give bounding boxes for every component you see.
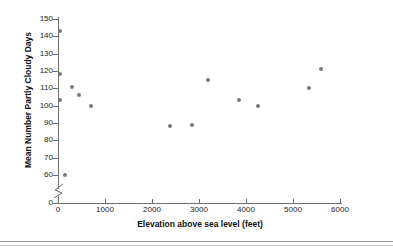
- y-tick-60: [53, 175, 58, 176]
- y-tick-0: [53, 203, 58, 204]
- y-tick-130: [53, 54, 58, 55]
- x-tick-label-3000: 3000: [182, 205, 216, 214]
- data-point: [63, 173, 67, 177]
- data-point: [89, 104, 93, 108]
- x-tick-label-6000: 6000: [323, 205, 357, 214]
- x-tick-3000: [199, 199, 200, 203]
- y-axis-title: Mean Number Partly Cloudy Days: [23, 12, 33, 188]
- data-point: [58, 98, 62, 102]
- page-divider-rule: [0, 241, 393, 242]
- scatter-plot-figure: 060708090100110120130140150 010002000300…: [0, 0, 393, 249]
- x-tick-label-0: 0: [41, 205, 75, 214]
- data-point: [319, 67, 323, 71]
- y-tick-140: [53, 36, 58, 37]
- data-point: [237, 98, 241, 102]
- x-axis-line: [58, 203, 342, 204]
- data-point: [58, 72, 62, 76]
- x-tick-5000: [293, 199, 294, 203]
- y-tick-100: [53, 106, 58, 107]
- data-point: [206, 78, 210, 82]
- data-point: [190, 123, 194, 127]
- page-divider-rule-secondary: [0, 245, 393, 246]
- y-tick-70: [53, 158, 58, 159]
- x-tick-label-5000: 5000: [276, 205, 310, 214]
- y-tick-90: [53, 123, 58, 124]
- y-axis-line: [58, 17, 59, 189]
- x-tick-0: [58, 199, 59, 203]
- y-tick-120: [53, 71, 58, 72]
- data-point: [77, 93, 81, 97]
- x-tick-label-1000: 1000: [88, 205, 122, 214]
- y-axis-break-icon: [52, 183, 65, 199]
- x-axis-title: Elevation above sea level (feet): [58, 219, 342, 229]
- data-point: [256, 104, 260, 108]
- x-tick-label-4000: 4000: [229, 205, 263, 214]
- x-tick-2000: [152, 199, 153, 203]
- y-tick-150: [53, 19, 58, 20]
- x-tick-label-2000: 2000: [135, 205, 169, 214]
- y-tick-110: [53, 88, 58, 89]
- x-tick-4000: [246, 199, 247, 203]
- x-tick-6000: [340, 199, 341, 203]
- data-point: [58, 29, 62, 33]
- data-point: [307, 86, 311, 90]
- y-tick-80: [53, 140, 58, 141]
- data-point: [70, 85, 74, 89]
- data-point: [168, 124, 172, 128]
- x-tick-1000: [105, 199, 106, 203]
